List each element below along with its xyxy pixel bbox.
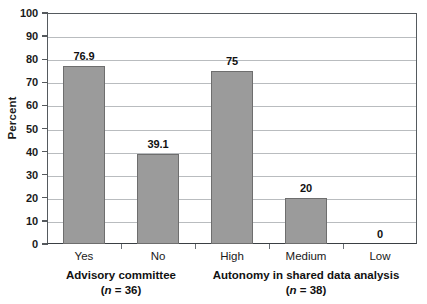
y-axis-tick-label: 40	[0, 146, 38, 158]
x-axis-tick-mark	[121, 244, 122, 249]
bar-value-label: 75	[202, 55, 262, 67]
y-axis-tick-label: 0	[0, 238, 38, 250]
bar-value-label: 0	[350, 228, 410, 240]
bar-chart: Percent 0102030405060708090100 76.939.17…	[0, 0, 427, 304]
y-axis-tick-label: 20	[0, 192, 38, 204]
y-axis-tick-label: 50	[0, 123, 38, 135]
bar-value-label: 76.9	[54, 50, 114, 62]
bar-value-label: 20	[276, 182, 336, 194]
x-axis-category-label: No	[118, 250, 198, 262]
y-axis-tick-label: 80	[0, 53, 38, 65]
x-axis-tick-mark	[269, 244, 270, 249]
group-caption: Autonomy in shared data analysis(n = 38)	[196, 268, 416, 298]
group-caption-label: Advisory committee	[66, 269, 176, 281]
group-captions: Advisory committee(n = 36)Autonomy in sh…	[47, 268, 417, 304]
y-axis-tick-label: 10	[0, 215, 38, 227]
bar[interactable]	[285, 198, 327, 244]
bars-layer: 76.939.175200	[47, 13, 417, 244]
bar[interactable]	[211, 71, 253, 244]
y-axis-tick-label: 70	[0, 76, 38, 88]
y-axis-tick-label: 100	[0, 7, 38, 19]
y-axis-tick-label: 90	[0, 30, 38, 42]
x-axis-category-labels: YesNoHighMediumLow	[47, 250, 417, 268]
group-sample-size: (n = 38)	[196, 283, 416, 298]
bar[interactable]	[63, 66, 105, 244]
x-axis-tick-mark	[195, 244, 196, 249]
x-axis-category-label: Low	[340, 250, 420, 262]
bar[interactable]	[137, 154, 179, 244]
y-axis-tick-label: 30	[0, 169, 38, 181]
y-axis-tick-labels: 0102030405060708090100	[0, 13, 38, 244]
group-caption-label: Autonomy in shared data analysis	[213, 269, 400, 281]
x-axis-category-label: Medium	[266, 250, 346, 262]
x-axis-tick-mark	[343, 244, 344, 249]
y-axis-tick-label: 60	[0, 99, 38, 111]
x-axis-category-label: Yes	[44, 250, 124, 262]
x-axis-category-label: High	[192, 250, 272, 262]
bar-value-label: 39.1	[128, 138, 188, 150]
